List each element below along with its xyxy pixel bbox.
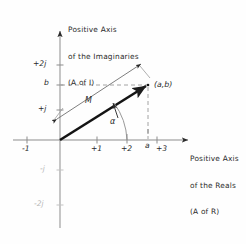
real-axis <box>13 134 188 144</box>
imaginary-axis <box>57 31 64 228</box>
xtick-label-2: +2 <box>121 145 132 154</box>
xtick-label-neg-1: -1 <box>22 145 30 154</box>
magnitude-label: M <box>85 96 92 105</box>
real-axis-title-line2: of the Reals <box>190 182 239 191</box>
imaginary-axis-title-line2: of the Imaginaries <box>68 53 139 62</box>
real-axis-title: Positive Axis of the Reals (A of R) <box>190 138 239 234</box>
ytick-label-b: b <box>44 79 49 88</box>
real-axis-title-line3: (A of R) <box>190 208 239 217</box>
alpha-arc <box>114 103 127 140</box>
angle-label-alpha: α <box>110 117 115 126</box>
xtick-label-3: +3 <box>156 145 167 154</box>
imaginary-axis-title-line1: Positive Axis <box>68 26 139 35</box>
ytick-label-j: +j <box>38 105 46 114</box>
point-label-ab: (a,b) <box>154 80 172 89</box>
magnitude-head-tick <box>140 66 150 78</box>
ytick-label-neg-j: -j <box>40 165 45 174</box>
ytick-label-2j: +2j <box>33 60 46 69</box>
real-axis-title-line1: Positive Axis <box>190 155 239 164</box>
point-ab-marker <box>147 84 150 87</box>
figure-canvas: Positive Axis of the Imaginaries (A of I… <box>0 0 246 244</box>
imaginary-axis-title-line3: (A of I) <box>68 79 139 88</box>
ytick-label-neg-2j: -2j <box>34 200 44 209</box>
xtick-label-1: +1 <box>91 145 102 154</box>
imaginary-axis-title: Positive Axis of the Imaginaries (A of I… <box>68 9 139 105</box>
xtick-label-a: a <box>145 142 150 151</box>
